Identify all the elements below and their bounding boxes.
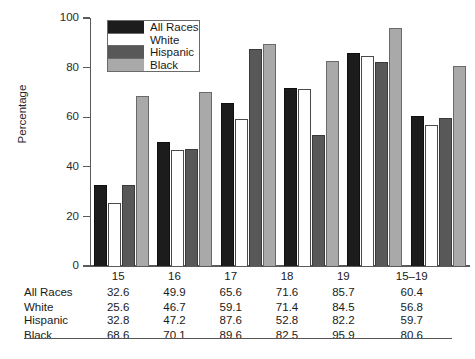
table-cell: 87.6 [203, 314, 259, 328]
table-header-row: 151617181915–19 [24, 267, 452, 284]
bar [453, 66, 466, 266]
y-tick-mark [83, 17, 90, 18]
table-cell: 60.4 [371, 284, 452, 300]
table-head: 151617181915–19 [24, 267, 452, 284]
table-row: Black68.670.189.682.595.980.6 [24, 327, 452, 342]
bar [122, 185, 135, 266]
table-cell: 47.2 [146, 314, 202, 328]
table-cell: 80.6 [371, 327, 452, 342]
table-cell: 52.8 [259, 314, 315, 328]
table-body: All Races32.649.965.671.685.760.4White25… [24, 284, 452, 342]
table-cell: 25.6 [90, 300, 146, 314]
bar [108, 203, 121, 266]
legend-label: White [150, 34, 199, 47]
table-cell: 82.2 [315, 314, 371, 328]
table-row: Hispanic32.847.287.652.882.259.7 [24, 314, 452, 328]
data-table: 151617181915–19 All Races32.649.965.671.… [24, 267, 452, 342]
bar [235, 119, 248, 266]
bar [249, 49, 262, 266]
table-bottom-rule [24, 338, 452, 339]
table-cell: 56.8 [371, 300, 452, 314]
legend-swatch [108, 21, 144, 34]
table-cell: 65.6 [203, 284, 259, 300]
legend-swatch [108, 34, 144, 47]
table-cell: 71.6 [259, 284, 315, 300]
bar [263, 44, 276, 266]
y-tick-label: 20 [66, 211, 83, 223]
bar [199, 92, 212, 266]
bar [284, 88, 297, 266]
table-cell: 89.6 [203, 327, 259, 342]
y-tick-label: 60 [66, 111, 83, 123]
table-cell: 32.8 [90, 314, 146, 328]
y-tick-label: 40 [66, 161, 83, 173]
table-cell: 32.6 [90, 284, 146, 300]
table-cell: 71.4 [259, 300, 315, 314]
table-column-header: 17 [203, 267, 259, 284]
table-column-header: 15–19 [371, 267, 452, 284]
table-row: White25.646.759.171.484.556.8 [24, 300, 452, 314]
bar [375, 62, 388, 266]
bar-group [280, 18, 343, 266]
table-cell: 46.7 [146, 300, 202, 314]
legend-swatch [108, 59, 144, 72]
table-column-header: 15 [90, 267, 146, 284]
y-tick-mark [83, 166, 90, 167]
bar [298, 89, 311, 266]
bar [411, 116, 424, 266]
table-cell: 70.1 [146, 327, 202, 342]
y-tick-label: 100 [60, 12, 83, 24]
bar [439, 118, 452, 266]
table-cell: 84.5 [315, 300, 371, 314]
y-axis-title: Percentage [16, 85, 28, 144]
bar [157, 142, 170, 266]
y-tick-mark [83, 216, 90, 217]
bar [94, 185, 107, 266]
table-column-header: 19 [315, 267, 371, 284]
legend-swatches [108, 21, 144, 71]
figure: 100806040200 Percentage All RacesWhiteHi… [0, 0, 475, 359]
legend-label: Hispanic [150, 46, 199, 59]
legend-swatch [108, 46, 144, 59]
bar [221, 103, 234, 266]
legend-label: All Races [150, 21, 199, 34]
bar-group [217, 18, 280, 266]
table-row-label: White [24, 300, 90, 314]
table-cell: 59.1 [203, 300, 259, 314]
table-row-label: Hispanic [24, 314, 90, 328]
table-cell: 82.5 [259, 327, 315, 342]
table-row-label: Black [24, 327, 90, 342]
table-cell: 49.9 [146, 284, 202, 300]
table-cell: 68.6 [90, 327, 146, 342]
y-tick-label: 80 [66, 62, 83, 74]
bar-group [407, 18, 470, 266]
bar-group [343, 18, 406, 266]
table-corner-cell [24, 267, 90, 284]
bar [361, 56, 374, 266]
legend-labels: All RacesWhiteHispanicBlack [144, 21, 199, 71]
bar [185, 149, 198, 266]
bar [389, 28, 402, 266]
table-cell: 59.7 [371, 314, 452, 328]
bar [171, 150, 184, 266]
table-cell: 85.7 [315, 284, 371, 300]
y-tick-mark [83, 117, 90, 118]
bar [312, 135, 325, 266]
y-tick-mark [83, 67, 90, 68]
legend-label: Black [150, 59, 199, 72]
bar [136, 96, 149, 266]
table-cell: 95.9 [315, 327, 371, 342]
table-column-header: 18 [259, 267, 315, 284]
table-column-header: 16 [146, 267, 202, 284]
legend: All RacesWhiteHispanicBlack [107, 20, 200, 72]
table-row-label: All Races [24, 284, 90, 300]
bar [326, 61, 339, 266]
bar [347, 53, 360, 266]
bar [425, 125, 438, 266]
table-row: All Races32.649.965.671.685.760.4 [24, 284, 452, 300]
